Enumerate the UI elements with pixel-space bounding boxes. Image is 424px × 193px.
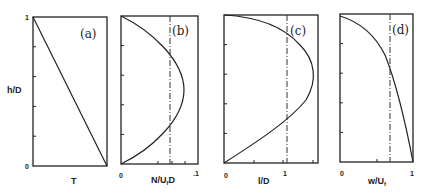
y-tick-top: 1	[25, 14, 29, 21]
y-tick-bottom: 0	[25, 163, 29, 170]
panel-d-tick-1: 1	[410, 170, 414, 177]
panel-c: (c) 0 1 l/D	[224, 15, 318, 186]
panel-d-tag: (d)	[392, 23, 409, 37]
y-axis-label: h/D	[7, 85, 22, 95]
panel-c-tick-0: 0	[224, 172, 228, 179]
panel-c-tick-1: 1	[283, 170, 287, 177]
panel-c-tag: (c)	[290, 24, 306, 38]
panel-a-tag: (a)	[80, 27, 97, 41]
panel-a: (a) T	[33, 17, 107, 186]
panel-b-tick-1: .1	[193, 170, 199, 177]
panel-b-tag: (b)	[172, 24, 189, 38]
panel-d-xlabel: w/Uf	[367, 176, 387, 187]
panel-d: (d) 0 1 w/Uf	[340, 14, 414, 187]
w-profile-curve	[340, 16, 413, 162]
panel-c-xlabel: l/D	[258, 176, 270, 186]
panel-b-xlabel: N/UfD	[151, 175, 176, 186]
panel-b-tick-0: 0	[119, 172, 123, 179]
figure: 1 0 h/D (a) T (b) 0 .1 N/UfD	[0, 0, 424, 193]
n-profile-curve	[121, 16, 184, 164]
panel-a-xlabel: T	[71, 176, 77, 186]
panel-d-tick-0: 0	[340, 170, 344, 177]
panel-b: (b) 0 .1 N/UfD	[119, 16, 199, 186]
